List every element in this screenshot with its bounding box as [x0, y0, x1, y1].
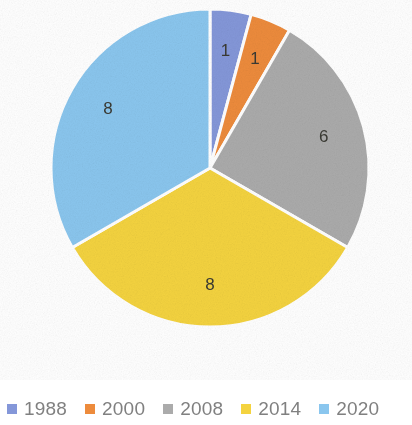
- legend-swatch-icon-2014: [241, 404, 251, 414]
- pie-chart-canvas: 11688: [0, 0, 412, 380]
- legend-label-2008: 2008: [180, 399, 223, 418]
- legend-label-2000: 2000: [102, 399, 145, 418]
- legend-item-1988[interactable]: 1988: [7, 399, 67, 418]
- legend-swatch-icon-2008: [163, 404, 173, 414]
- pie-chart: 11688: [0, 0, 412, 380]
- pie-slice-label-2020: 8: [103, 99, 112, 118]
- legend-label-2020: 2020: [336, 399, 379, 418]
- pie-slice-label-2008: 6: [319, 127, 328, 146]
- pie-slice-label-1988: 1: [221, 41, 230, 60]
- pie-slice-label-2000: 1: [250, 49, 259, 68]
- legend-swatch-icon-2000: [85, 404, 95, 414]
- legend-item-2020[interactable]: 2020: [319, 399, 379, 418]
- legend-swatch-icon-2020: [319, 404, 329, 414]
- legend-swatch-icon-1988: [7, 404, 17, 414]
- legend-label-1988: 1988: [24, 399, 67, 418]
- legend-item-2000[interactable]: 2000: [85, 399, 145, 418]
- legend-item-2008[interactable]: 2008: [163, 399, 223, 418]
- pie-slice-label-2014: 8: [205, 275, 214, 294]
- legend-item-2014[interactable]: 2014: [241, 399, 301, 418]
- legend-label-2014: 2014: [258, 399, 301, 418]
- chart-legend: 19882000200820142020: [0, 392, 412, 425]
